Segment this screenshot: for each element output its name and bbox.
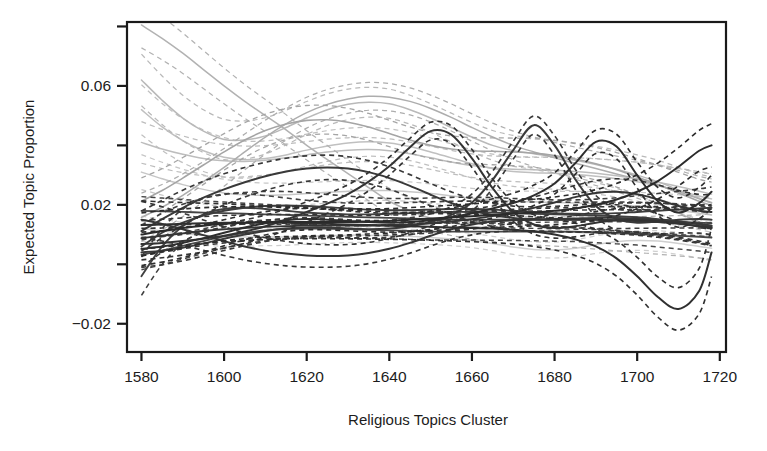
x-tick-label: 1720: [703, 368, 738, 385]
chart-canvas: 15801600162016401660168017001720−0.020.0…: [0, 0, 767, 451]
x-tick-label: 1640: [372, 368, 407, 385]
y-tick-label: 0.02: [81, 196, 111, 213]
x-tick-label: 1600: [207, 368, 242, 385]
x-tick-label: 1680: [537, 368, 572, 385]
x-tick-label: 1580: [124, 368, 159, 385]
x-tick-label: 1620: [289, 368, 324, 385]
chart-figure: 15801600162016401660168017001720−0.020.0…: [0, 0, 767, 451]
y-tick-label: −0.02: [72, 315, 111, 332]
x-axis-title: Religious Topics Cluster: [348, 411, 508, 428]
x-tick-label: 1660: [455, 368, 490, 385]
y-axis-title: Expected Topic Proportion: [20, 100, 37, 275]
x-tick-label: 1700: [620, 368, 655, 385]
y-tick-label: 0.06: [81, 77, 111, 94]
plot-series-layer: [141, 2, 711, 330]
plot-frame-layer: [127, 22, 726, 352]
